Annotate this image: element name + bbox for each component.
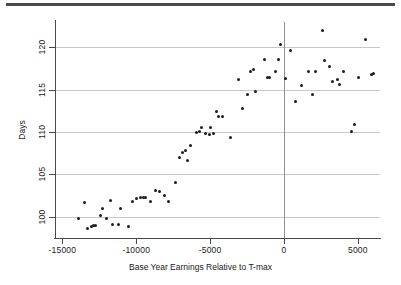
scatter-point — [274, 70, 277, 73]
scatter-point — [215, 110, 218, 113]
scatter-point — [208, 133, 211, 136]
x-axis-title: Base Year Earnings Relative to T-max — [0, 262, 401, 272]
scatter-point — [189, 144, 192, 147]
scatter-chart-figure: Days Base Year Earnings Relative to T-ma… — [0, 0, 401, 285]
scatter-point — [209, 126, 212, 129]
scatter-point — [154, 189, 157, 192]
scatter-point — [289, 49, 292, 52]
scatter-point — [163, 194, 166, 197]
scatter-point — [307, 70, 310, 73]
scatter-point — [246, 93, 249, 96]
scatter-point — [321, 29, 324, 32]
scatter-point — [94, 224, 97, 227]
scatter-point — [83, 201, 86, 204]
scatter-point — [284, 77, 287, 80]
zero-reference-line — [284, 22, 285, 238]
y-axis-title: Days — [17, 120, 27, 139]
scatter-point — [77, 217, 80, 220]
x-axis-tick — [358, 239, 359, 244]
y-axis-line — [55, 20, 56, 239]
x-axis-tick-label: 5000 — [348, 245, 368, 255]
scatter-point — [263, 58, 266, 61]
scatter-point — [184, 149, 187, 152]
gridline-y — [55, 174, 380, 175]
y-axis-tick — [49, 174, 55, 175]
scatter-point — [131, 200, 134, 203]
scatter-point — [221, 115, 224, 118]
scatter-point — [336, 78, 339, 81]
scatter-point — [241, 107, 244, 110]
y-axis-tick-label: 100 — [37, 209, 47, 224]
scatter-point — [328, 65, 331, 68]
scatter-point — [117, 223, 120, 226]
scatter-point — [204, 132, 207, 135]
x-axis-tick-label: -10000 — [122, 245, 150, 255]
x-axis-tick — [136, 239, 137, 244]
y-axis-tick-label: 105 — [37, 167, 47, 182]
y-axis-tick-label: 110 — [37, 125, 47, 139]
x-axis-line — [54, 238, 381, 239]
scatter-point — [372, 72, 375, 75]
scatter-point — [249, 70, 252, 73]
scatter-point — [342, 70, 345, 73]
gridline-y — [55, 217, 380, 218]
scatter-point — [364, 38, 367, 41]
scatter-point — [254, 90, 257, 93]
y-axis-tick — [49, 132, 55, 133]
scatter-point — [119, 207, 122, 210]
y-axis-tick — [49, 217, 55, 218]
x-axis-tick-label: -15000 — [49, 245, 77, 255]
x-axis-tick — [62, 239, 63, 244]
scatter-point — [229, 136, 232, 139]
y-axis-tick-label: 115 — [37, 83, 47, 97]
scatter-point — [86, 227, 89, 230]
scatter-point — [252, 68, 255, 71]
scatter-point — [353, 123, 356, 126]
scatter-point — [144, 196, 147, 199]
scatter-point — [167, 200, 170, 203]
scatter-point — [279, 43, 282, 46]
scatter-point — [277, 58, 280, 61]
scatter-point — [237, 78, 240, 81]
scatter-point — [300, 84, 303, 87]
scatter-point — [311, 93, 314, 96]
scatter-point — [174, 181, 177, 184]
gridline-y — [55, 47, 380, 48]
scatter-point — [357, 76, 360, 79]
gridline-y — [55, 90, 380, 91]
scatter-point — [135, 197, 138, 200]
scatter-point — [178, 156, 181, 159]
scatter-point — [217, 115, 220, 118]
scatter-point — [101, 207, 104, 210]
y-axis-tick-label: 120 — [37, 40, 47, 55]
y-axis-tick — [49, 47, 55, 48]
x-axis-tick — [284, 239, 285, 244]
scatter-point — [338, 83, 341, 86]
scatter-point — [200, 126, 203, 129]
plot-area — [55, 22, 380, 238]
scatter-point — [314, 70, 317, 73]
scatter-point — [109, 199, 112, 202]
scatter-point — [127, 225, 130, 228]
scatter-point — [186, 159, 189, 162]
scatter-point — [323, 59, 326, 62]
scatter-point — [149, 200, 152, 203]
scatter-point — [268, 76, 271, 79]
scatter-point — [158, 190, 161, 193]
x-axis-tick-label: -5000 — [199, 245, 222, 255]
gridline-y — [55, 132, 380, 133]
y-axis-tick — [49, 90, 55, 91]
scatter-point — [111, 223, 114, 226]
scatter-point — [212, 132, 215, 135]
scatter-point — [105, 217, 108, 220]
scatter-point — [331, 80, 334, 83]
x-axis-tick-label: 0 — [282, 245, 287, 255]
scatter-point — [294, 100, 297, 103]
x-axis-tick — [210, 239, 211, 244]
